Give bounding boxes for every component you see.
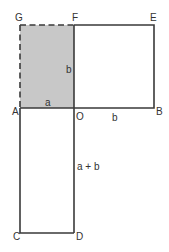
point-label-d: D [76, 231, 83, 242]
point-label-g: G [15, 12, 23, 23]
point-label-a: A [12, 106, 19, 117]
point-label-c: C [13, 231, 20, 242]
point-label-e: E [150, 12, 157, 23]
rectangle-acdo [20, 108, 74, 233]
point-label-o: O [76, 111, 84, 122]
point-label-f: F [72, 12, 78, 23]
segment-label-od: a + b [77, 161, 100, 172]
segment-label-ob: b [112, 112, 118, 123]
point-label-b: B [156, 106, 163, 117]
geometry-diagram: G F E A O B C D a b b a + b [0, 0, 169, 252]
segment-label-ao: a [45, 97, 51, 108]
segment-label-of: b [66, 64, 72, 75]
square-obef [74, 25, 154, 108]
